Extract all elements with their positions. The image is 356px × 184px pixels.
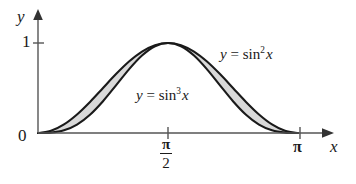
- curve-label-sin-squared-eq: =: [227, 46, 243, 62]
- fraction-bar: [160, 153, 172, 154]
- curve-label-sin-cubed-fn: sin: [159, 87, 177, 103]
- fraction-denominator: 2: [160, 155, 172, 171]
- curve-label-sin-cubed-power: 3: [176, 86, 181, 96]
- curve-label-sin-squared-arg: x: [266, 46, 273, 62]
- curve-label-sin-cubed-arg: x: [182, 87, 189, 103]
- fraction-numerator: π: [160, 137, 172, 153]
- y-axis-arrowhead: [33, 9, 43, 20]
- x-tick-label-pi: π: [293, 139, 302, 155]
- y-tick-label-1: 1: [22, 33, 31, 50]
- curve-label-sin-squared-lhs: y: [220, 46, 227, 62]
- y-axis-label: y: [17, 8, 25, 25]
- curve-label-sin-cubed: y = sin3 x: [136, 88, 189, 103]
- curve-label-sin-squared: y = sin2 x: [220, 47, 273, 62]
- x-axis-label: x: [330, 138, 338, 155]
- x-tick-label-pi-over-2: π 2: [160, 137, 172, 171]
- curve-label-sin-cubed-lhs: y: [136, 87, 143, 103]
- figure-sin-squared-sin-cubed-area: y x 1 0 π 2 π y = sin2 x y = sin3 x: [0, 0, 356, 184]
- curve-label-sin-cubed-eq: =: [143, 87, 159, 103]
- fraction-pi-over-2: π 2: [160, 137, 172, 171]
- origin-label: 0: [18, 127, 27, 144]
- curve-label-sin-squared-power: 2: [260, 45, 265, 55]
- curve-label-sin-squared-fn: sin: [243, 46, 261, 62]
